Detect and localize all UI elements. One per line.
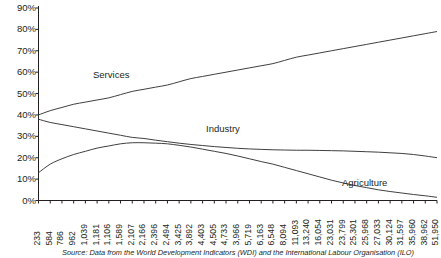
x-axis-tick-label: 25,301	[350, 220, 359, 246]
x-axis-tick-label: 5,719	[244, 224, 253, 246]
x-axis-tick-label: 1,039	[80, 224, 89, 246]
x-axis-tick-label: 4,505	[209, 224, 218, 246]
series-label-agriculture: Agriculture	[342, 178, 387, 188]
x-axis-tick-label: 23,799	[338, 220, 347, 246]
x-axis-tick-label: 3,892	[186, 224, 195, 246]
x-axis-tick-label: 6,548	[268, 224, 277, 246]
series-line-agriculture	[39, 143, 438, 198]
x-axis-tick-label: 11,093	[291, 220, 300, 246]
x-axis-tick-label: 25,968	[361, 220, 370, 246]
x-axis-tick-label: 6,163	[256, 224, 265, 246]
source-note: Source: Data from the World Development …	[62, 249, 414, 257]
x-axis-tick-label: 962	[68, 232, 77, 246]
x-axis-tick-label: 584	[45, 232, 54, 246]
x-axis-tick-label: 233	[33, 232, 42, 246]
x-axis-tick-label: 1,181	[92, 224, 101, 246]
x-axis-tick-label: 51,950	[432, 220, 441, 246]
x-axis-tick-label: 2,396	[151, 224, 160, 246]
x-axis-tick-label: 30,124	[385, 220, 394, 246]
x-axis-tick-label: 31,597	[397, 220, 406, 246]
x-axis-tick-label: 4,733	[221, 224, 230, 246]
data-series-group	[39, 32, 438, 198]
x-axis-tick-label: 3,425	[174, 224, 183, 246]
x-axis-tick-label: 13,240	[303, 220, 312, 246]
x-axis-tick-label: 1,589	[115, 224, 124, 246]
x-axis-tick-label: 27,033	[373, 220, 382, 246]
x-axis-tick-label: 2,166	[139, 224, 148, 246]
x-axis-tick-label: 3,966	[233, 224, 242, 246]
x-axis-tick-label: 38,962	[420, 220, 429, 246]
x-axis-tick-label: 8,094	[279, 224, 288, 246]
x-axis: 2335847869621,0391,1811,1061,5892,1072,1…	[0, 202, 439, 246]
series-label-industry: Industry	[206, 124, 240, 134]
axis-lines	[39, 6, 438, 201]
series-label-services: Services	[93, 70, 129, 80]
x-axis-tick-label: 4,403	[197, 224, 206, 246]
x-axis-tick-label: 2,494	[162, 224, 171, 246]
x-axis-tick-label: 1,106	[104, 224, 113, 246]
x-axis-tick-label: 786	[57, 232, 66, 246]
x-axis-tick-label: 35,960	[408, 220, 417, 246]
x-axis-tick-label: 16,054	[315, 220, 324, 246]
x-axis-tick-label: 23,031	[326, 220, 335, 246]
x-axis-tick-label: 2,107	[127, 224, 136, 246]
